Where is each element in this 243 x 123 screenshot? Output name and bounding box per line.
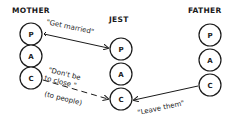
father-group: FATHER P A C xyxy=(188,6,222,96)
jest-label: JEST xyxy=(108,15,129,24)
transaction-get-married: "Get married" xyxy=(44,18,108,48)
jest-parent-text: P xyxy=(118,46,123,54)
father-child-text: C xyxy=(207,82,212,90)
father-parent-text: P xyxy=(207,32,212,40)
message-leave-them: "Leave them" xyxy=(137,99,185,117)
mother-child-text: C xyxy=(28,75,33,83)
mother-adult-text: A xyxy=(28,53,34,61)
jest-group: JEST P A C xyxy=(108,15,132,110)
arrow-father-to-jest-child xyxy=(134,86,198,100)
jest-adult-text: A xyxy=(118,71,124,79)
arrow-mother-to-jest-parent xyxy=(44,34,108,48)
transaction-dont-be-close: "Don't be to close " (to people) xyxy=(43,66,108,107)
father-label: FATHER xyxy=(188,6,222,15)
father-adult-text: A xyxy=(207,57,213,65)
mother-label: MOTHER xyxy=(12,6,50,15)
message-to-people-note: (to people) xyxy=(44,90,83,107)
mother-parent-text: P xyxy=(28,31,33,39)
transaction-leave-them: "Leave them" xyxy=(134,86,198,117)
transaction-diagram: MOTHER P A C JEST P A C FATHER P A C "Ge… xyxy=(0,0,243,123)
message-get-married: "Get married" xyxy=(46,18,95,36)
jest-child-text: C xyxy=(118,96,123,104)
